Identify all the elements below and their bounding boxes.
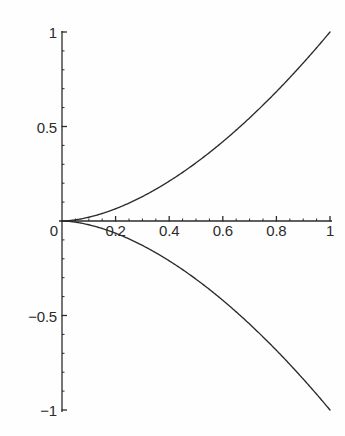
y-tick-label: 0.5 [37, 118, 57, 135]
y-tick-label: 1 [49, 24, 57, 41]
y-tick-label: −1 [40, 402, 57, 419]
x-tick-label: 0.4 [159, 222, 179, 239]
origin-tick-label: 0 [50, 222, 58, 239]
x-tick-label: 0.6 [213, 222, 233, 239]
curve-upper-branch [62, 32, 330, 221]
y-tick-label: −0.5 [28, 307, 57, 324]
plot-canvas [0, 0, 345, 436]
x-tick-label: 0.8 [266, 222, 286, 239]
curve-lower-branch [62, 221, 330, 410]
plot-figure: 00.20.40.60.81−1−0.50.51 [0, 0, 345, 436]
tick-marks-group [62, 32, 331, 410]
axes-group [59, 31, 332, 412]
x-tick-label: 0.2 [105, 222, 125, 239]
x-tick-label: 1 [326, 222, 334, 239]
